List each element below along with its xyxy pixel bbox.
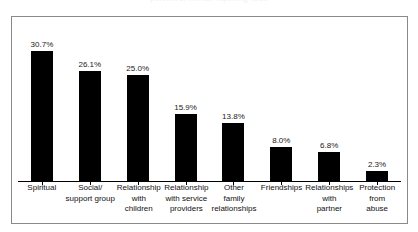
bar-rect[interactable] [222, 123, 244, 181]
category-label-line: Relationship [115, 183, 163, 194]
bar-value-label: 30.7% [31, 40, 54, 50]
category-axis-labels: Spiritual Social/ support group Relation… [18, 183, 401, 215]
bar-value-label: 25.0% [126, 64, 149, 74]
bar-group-social-support-group[interactable]: 26.1% [66, 17, 114, 181]
bar-group-friendships[interactable]: 8.0% [257, 17, 305, 181]
category-label-spiritual: Spiritual [18, 183, 66, 194]
category-label-social-support-group: Social/ support group [66, 183, 115, 204]
category-label-relationships-with-partner: Relationships with partner [305, 183, 353, 215]
bar-value-label: 13.8% [222, 112, 245, 122]
bar-rect[interactable] [270, 147, 292, 181]
category-label-line: Protection [353, 183, 401, 194]
bar-rect[interactable] [79, 71, 101, 181]
bar-series: 30.7% 26.1% 25.0% 15.9% [18, 17, 401, 181]
bar-rect[interactable] [366, 171, 388, 181]
category-label-line: with [305, 194, 353, 205]
bar-value-label: 2.3% [368, 160, 386, 170]
bar-chart-figure: percent of women reporting need 30.7% 26… [0, 0, 418, 232]
category-label-friendships: Friendships [258, 183, 306, 194]
bar-value-label: 26.1% [78, 60, 101, 70]
chart-frame: 30.7% 26.1% 25.0% 15.9% [11, 16, 408, 224]
category-label-line: from [353, 194, 401, 205]
category-label-line: Friendships [258, 183, 306, 194]
category-label-relationship-with-service-providers: Relationship with service providers [163, 183, 211, 215]
bar-group-spiritual[interactable]: 30.7% [18, 17, 66, 181]
category-label-line: with [115, 194, 163, 205]
category-label-line: abuse [353, 204, 401, 215]
category-label-line: support group [66, 194, 115, 205]
category-label-line: family [210, 194, 258, 205]
bar-rect[interactable] [31, 51, 53, 181]
bar-group-relationship-with-service-providers[interactable]: 15.9% [162, 17, 210, 181]
bar-value-label: 6.8% [320, 141, 338, 151]
bar-value-label: 8.0% [272, 136, 290, 146]
clipped-title-text: percent of women reporting need [0, 0, 418, 4]
category-label-line: Other [210, 183, 258, 194]
category-label-line: relationships [210, 204, 258, 215]
category-label-line: Spiritual [18, 183, 66, 194]
category-label-line: Social/ [66, 183, 115, 194]
bar-group-relationships-with-partner[interactable]: 6.8% [305, 17, 353, 181]
category-axis-line [18, 181, 401, 182]
category-label-protection-from-abuse: Protection from abuse [353, 183, 401, 215]
category-label-line: children [115, 204, 163, 215]
category-label-line: Relationships [305, 183, 353, 194]
bar-group-relationship-with-children[interactable]: 25.0% [114, 17, 162, 181]
category-label-other-family-relationships: Other family relationships [210, 183, 258, 215]
bar-group-other-family-relationships[interactable]: 13.8% [210, 17, 258, 181]
category-label-line: providers [163, 204, 211, 215]
bar-rect[interactable] [175, 114, 197, 181]
category-label-line: with service [163, 194, 211, 205]
plot-area: 30.7% 26.1% 25.0% 15.9% [12, 17, 407, 181]
category-label-line: partner [305, 204, 353, 215]
category-label-line: Relationship [163, 183, 211, 194]
bar-rect[interactable] [318, 152, 340, 181]
bar-group-protection-from-abuse[interactable]: 2.3% [353, 17, 401, 181]
bar-rect[interactable] [127, 75, 149, 181]
category-label-relationship-with-children: Relationship with children [115, 183, 163, 215]
bar-value-label: 15.9% [174, 103, 197, 113]
